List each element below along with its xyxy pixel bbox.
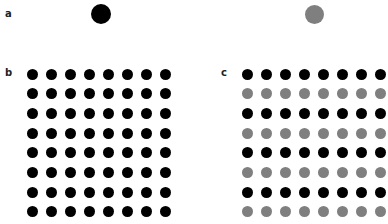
- grid-dot: [356, 187, 367, 198]
- grid-dot: [280, 147, 291, 158]
- grid-dot: [337, 187, 348, 198]
- grid-dot: [337, 147, 348, 158]
- grid-dot: [299, 128, 310, 139]
- grid-dot: [160, 88, 171, 99]
- grid-dot: [27, 128, 38, 139]
- grid-dot: [103, 187, 114, 198]
- grid-dot: [356, 108, 367, 119]
- grid-dot: [261, 167, 272, 178]
- grid-dot: [84, 147, 95, 158]
- grid-dot: [375, 88, 386, 99]
- grid-dot: [337, 88, 348, 99]
- grid-dot: [299, 108, 310, 119]
- grid-dot: [141, 128, 152, 139]
- grid-dot: [242, 88, 253, 99]
- grid-dot: [280, 167, 291, 178]
- grid-dot: [160, 206, 171, 217]
- grid-dot: [122, 88, 133, 99]
- grid-dot: [375, 147, 386, 158]
- grid-dot: [299, 206, 310, 217]
- grid-dot: [46, 187, 57, 198]
- grid-dot: [356, 147, 367, 158]
- grid-dot: [261, 128, 272, 139]
- grid-dot: [103, 108, 114, 119]
- grid-dot: [84, 167, 95, 178]
- grid-dot: [337, 108, 348, 119]
- grid-dot: [103, 206, 114, 217]
- grid-dot: [318, 108, 329, 119]
- grid-dot: [160, 167, 171, 178]
- grid-dot: [65, 88, 76, 99]
- grid-dot: [122, 108, 133, 119]
- grid-dot: [356, 69, 367, 80]
- grid-dot: [261, 88, 272, 99]
- grid-dot: [261, 108, 272, 119]
- grid-dot: [46, 69, 57, 80]
- grid-dot: [280, 108, 291, 119]
- grid-dot: [27, 147, 38, 158]
- grid-dot: [46, 147, 57, 158]
- grid-dot: [318, 128, 329, 139]
- grid-dot: [280, 187, 291, 198]
- grid-dot: [84, 69, 95, 80]
- grid-dot: [27, 206, 38, 217]
- grid-dot: [160, 69, 171, 80]
- grid-dot: [375, 167, 386, 178]
- grid-dot: [141, 147, 152, 158]
- grid-dot: [261, 147, 272, 158]
- grid-dot: [65, 167, 76, 178]
- grid-dot: [242, 167, 253, 178]
- grid-dot: [318, 69, 329, 80]
- grid-dot: [318, 88, 329, 99]
- grid-dot: [160, 128, 171, 139]
- grid-dot: [280, 69, 291, 80]
- grid-dot: [356, 128, 367, 139]
- grid-dot: [46, 88, 57, 99]
- grid-dot: [375, 128, 386, 139]
- grid-dot: [318, 167, 329, 178]
- grid-dot: [27, 108, 38, 119]
- grid-dot: [27, 167, 38, 178]
- grid-dot: [141, 206, 152, 217]
- grid-dot: [122, 128, 133, 139]
- grid-dot: [299, 187, 310, 198]
- panel-b-label: b: [5, 67, 12, 78]
- grid-dot: [280, 206, 291, 217]
- grid-dot: [122, 167, 133, 178]
- grid-dot: [318, 187, 329, 198]
- grid-dot: [103, 147, 114, 158]
- grid-dot: [103, 69, 114, 80]
- grid-dot: [27, 88, 38, 99]
- grid-dot: [261, 69, 272, 80]
- grid-dot: [84, 108, 95, 119]
- grid-dot: [46, 167, 57, 178]
- grid-dot: [103, 128, 114, 139]
- grid-dot: [337, 167, 348, 178]
- grid-dot: [375, 206, 386, 217]
- grid-dot: [141, 69, 152, 80]
- panel-c-label: c: [221, 67, 227, 78]
- grid-dot: [122, 206, 133, 217]
- grid-dot: [46, 128, 57, 139]
- grid-dot: [375, 108, 386, 119]
- grid-dot: [375, 187, 386, 198]
- grid-dot: [141, 108, 152, 119]
- grid-dot: [299, 147, 310, 158]
- grid-dot: [261, 206, 272, 217]
- grid-dot: [141, 187, 152, 198]
- grid-dot: [280, 128, 291, 139]
- grid-dot: [242, 108, 253, 119]
- grid-dot: [356, 88, 367, 99]
- grid-dot: [46, 206, 57, 217]
- grid-dot: [299, 88, 310, 99]
- grid-dot: [27, 187, 38, 198]
- grid-dot: [318, 147, 329, 158]
- grid-dot: [103, 167, 114, 178]
- grid-dot: [318, 206, 329, 217]
- grid-dot: [337, 128, 348, 139]
- grid-dot: [65, 206, 76, 217]
- grid-dot: [65, 108, 76, 119]
- grid-dot: [141, 88, 152, 99]
- black-dot: [91, 4, 111, 24]
- grid-dot: [337, 206, 348, 217]
